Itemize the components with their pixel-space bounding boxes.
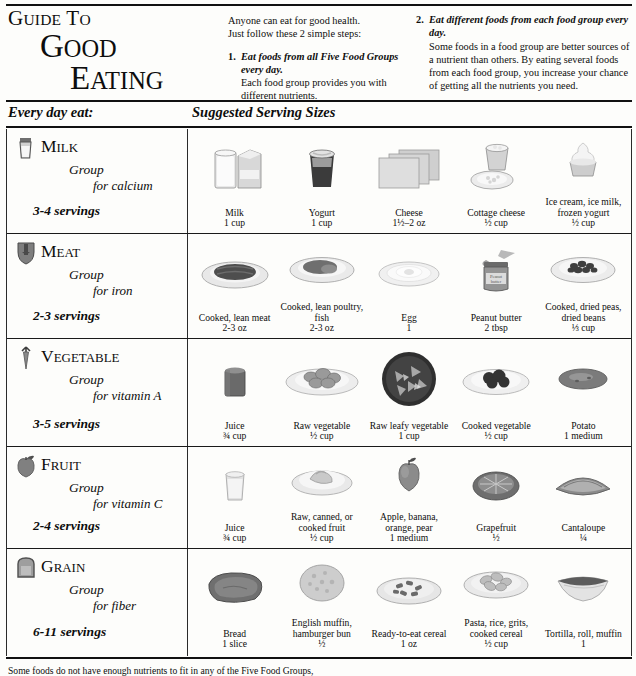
food-caption: Tortilla, roll, muffin 1 (545, 627, 622, 650)
step-2-number: 2. (416, 13, 429, 93)
food-caption: Apple, banana, orange, pear 1 medium (365, 510, 452, 544)
cooked-veg-plate-art (453, 339, 540, 419)
food-name: Bread (223, 628, 246, 639)
table-row: VEGETABLE Group for vitamin A 3-5 servin… (7, 339, 631, 447)
food-amount: 2-3 oz (199, 323, 271, 334)
step-1-text: Each food group provides you with differ… (241, 76, 410, 103)
food-name: Potato (571, 420, 596, 431)
table-row: MEAT Group for iron 2-3 servings (7, 234, 631, 339)
group-servings-meat: 2-3 servings (33, 308, 100, 324)
food-name: English muffin, hamburger bun (292, 617, 352, 639)
food-item: Bread 1 slice (191, 549, 278, 650)
food-caption: Yogurt 1 cup (309, 206, 335, 229)
group-servings-milk: 3-4 servings (33, 203, 100, 219)
foods-fruit: Juice ¾ cup Raw, canned, or (187, 447, 631, 548)
cantaloupe-wedge-art (540, 447, 627, 521)
guide-to-good-eating-poster: GUIDE TO GOOD EATING Anyone can eat for … (0, 0, 636, 676)
food-item: Potato 1 medium (540, 339, 627, 442)
step-1-number: 1. (228, 50, 241, 103)
food-amount: ¾ cup (223, 533, 246, 544)
group-word-milk: Group (13, 162, 187, 178)
group-word-meat: Group (13, 267, 187, 283)
food-caption: Grapefruit ½ (476, 521, 516, 544)
step-2-text: Some foods in a food group are better so… (429, 40, 632, 93)
cereal-bowl-art (365, 549, 452, 627)
group-label-grain: GRAIN Group for fiber 6-11 servings (7, 549, 187, 654)
group-name-milk: MILK (41, 135, 78, 156)
food-amount: ½ (278, 639, 365, 650)
food-name: Cantaloupe (562, 522, 606, 533)
group-servings-fruit: 2-4 servings (33, 518, 100, 534)
food-caption: Peanut butter 2 tbsp (471, 311, 522, 334)
food-groups-table: MILK Group for calcium 3-4 servings (6, 129, 632, 656)
group-nutrient-vegetable: for vitamin A (13, 388, 187, 404)
food-caption: Cottage cheese ½ cup (467, 206, 525, 229)
title-line-3: EATING (8, 62, 228, 94)
intro-lead-line-1: Anyone can eat for good health. (228, 14, 410, 27)
foods-grain: Bread 1 slice (187, 549, 631, 654)
food-amount: ½ cup (467, 218, 525, 229)
ice-cream-cup-art (540, 129, 627, 195)
milk-glass-icon (13, 135, 39, 161)
food-name: Milk (225, 207, 244, 218)
leafy-bowl-art (365, 339, 452, 419)
group-word-grain: Group (13, 582, 187, 598)
group-name-vegetable: VEGETABLE (41, 345, 119, 366)
food-caption: Cantaloupe ¼ (562, 521, 606, 544)
food-item: Ice cream, ice milk, frozen yogurt ½ cup (540, 129, 627, 229)
intro-step-2: 2. Eat different foods from each food gr… (416, 13, 632, 93)
food-caption: Potato 1 medium (564, 419, 603, 442)
bread-slice-art (191, 549, 278, 627)
food-item: Yogurt 1 cup (278, 129, 365, 229)
title-line-2: GOOD (8, 30, 228, 62)
food-caption: Cooked, lean meat 2-3 oz (199, 311, 271, 334)
food-amount: 1 medium (365, 533, 452, 544)
group-label-vegetable: VEGETABLE Group for vitamin A 3-5 servin… (7, 339, 187, 446)
tortilla-art (540, 549, 627, 627)
table-row: MILK Group for calcium 3-4 servings (7, 129, 631, 234)
group-label-meat: MEAT Group for iron 2-3 servings (7, 234, 187, 338)
food-name: Raw vegetable (293, 420, 350, 431)
foods-meat: Cooked, lean meat 2-3 oz Co (187, 234, 631, 338)
fruit-juice-glass-art (191, 447, 278, 521)
food-name: Apple, banana, orange, pear (380, 511, 438, 533)
meat-cut-icon (13, 240, 39, 266)
food-amount: 2 tbsp (471, 323, 522, 334)
food-item: Egg 1 (365, 234, 452, 334)
bread-slice-icon (13, 555, 39, 581)
food-item: Peanut butter Peanut butter 2 tbsp (453, 234, 540, 334)
intro-step-1: 1. Eat foods from all Five Food Groups e… (228, 50, 410, 103)
food-amount: ¼ (562, 533, 606, 544)
food-item: Ready-to-eat cereal 1 oz (365, 549, 452, 650)
food-amount: ½ cup (540, 218, 627, 229)
table-row: GRAIN Group for fiber 6-11 servings (7, 549, 631, 654)
food-caption: English muffin, hamburger bun ½ (278, 616, 365, 650)
food-caption: Ready-to-eat cereal 1 oz (372, 627, 447, 650)
yogurt-cup-art (278, 129, 365, 206)
group-nutrient-meat: for iron (13, 283, 187, 299)
food-amount: ½ cup (278, 533, 365, 544)
food-name: Cooked vegetable (462, 420, 531, 431)
food-caption: Raw leafy vegetable 1 cup (370, 419, 448, 442)
food-amount: ½ (476, 533, 516, 544)
svg-text:butter: butter (491, 279, 502, 284)
food-name: Tortilla, roll, muffin (545, 628, 622, 639)
milk-carton-glass-art (191, 129, 278, 206)
title-block: GUIDE TO GOOD EATING (0, 6, 228, 95)
food-item: Juice ¾ cup (191, 339, 278, 442)
food-item: Cooked vegetable ½ cup (453, 339, 540, 442)
food-amount: 1 (545, 639, 622, 650)
food-caption: Cooked, dried peas, dried beans ⅓ cup (540, 300, 627, 334)
food-caption: Cheese 1½–2 oz (392, 206, 425, 229)
food-amount: 2-3 oz (278, 323, 365, 334)
veg-juice-glass-art (191, 339, 278, 419)
intro-column-2: 2. Eat different foods from each food gr… (410, 6, 632, 93)
food-name: Cottage cheese (467, 207, 525, 218)
whole-fruit-art (365, 447, 452, 510)
food-caption: Juice ¾ cup (223, 521, 246, 544)
food-amount: 1 cup (370, 431, 448, 442)
food-item: Pasta, rice, grits, cooked cereal ½ cup (453, 549, 540, 650)
food-name: Ice cream, ice milk, frozen yogurt (545, 196, 621, 218)
food-name: Egg (401, 312, 416, 323)
food-amount: 1 (401, 323, 416, 334)
